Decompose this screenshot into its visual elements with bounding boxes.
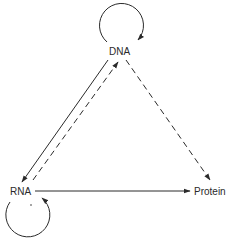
- diagram-arrows: [0, 0, 228, 241]
- rna-replication-loop: [6, 198, 50, 237]
- central-dogma-diagram: DNA RNA Protein: [0, 0, 228, 241]
- rna-loop-dot: [30, 204, 32, 206]
- dna-replication-loop: [99, 3, 143, 42]
- dna-label: DNA: [109, 46, 130, 58]
- rna-to-dna-arrow: [33, 62, 118, 180]
- protein-label: Protein: [194, 186, 226, 198]
- dna-to-rna-arrow: [22, 60, 108, 182]
- rna-label: RNA: [10, 186, 31, 198]
- dna-to-protein-arrow: [126, 60, 210, 180]
